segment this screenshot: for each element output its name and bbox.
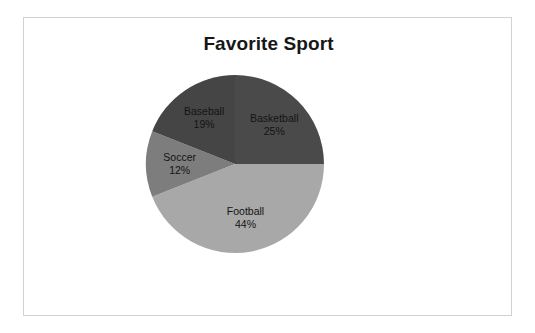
pie-chart: Basketball25%Football44%Soccer12%Basebal…	[24, 18, 513, 317]
chart-frame: Favorite Sport Basketball25%Football44%S…	[23, 17, 512, 316]
pie-svg	[145, 74, 325, 254]
pie-slices	[146, 75, 324, 253]
pie-slice-basketball[interactable]	[235, 75, 324, 164]
